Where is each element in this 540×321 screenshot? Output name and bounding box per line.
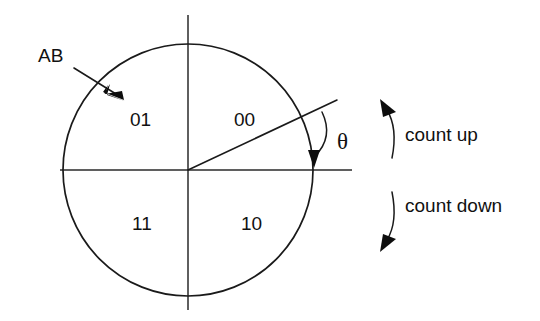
theta-arrowhead bbox=[308, 150, 320, 168]
count-up-label: count up bbox=[405, 124, 478, 145]
count-up-arc bbox=[387, 110, 394, 158]
theta-arc bbox=[315, 112, 327, 156]
count-down-arc bbox=[387, 192, 394, 240]
count-down-label: count down bbox=[405, 195, 502, 216]
diagram-canvas: AB 01 00 11 10 θ count up count down bbox=[0, 0, 540, 321]
count-up-arrowhead bbox=[380, 99, 396, 117]
quadrant-label-11: 11 bbox=[132, 213, 152, 234]
ab-label: AB bbox=[38, 45, 63, 66]
theta-symbol: θ bbox=[337, 129, 348, 154]
count-down-arrowhead bbox=[380, 234, 396, 252]
quadrant-label-00: 00 bbox=[234, 109, 255, 130]
quadrant-label-01: 01 bbox=[130, 109, 151, 130]
quadrant-label-10: 10 bbox=[241, 213, 262, 234]
phase-circle-diagram: AB 01 00 11 10 θ count up count down bbox=[0, 0, 540, 321]
